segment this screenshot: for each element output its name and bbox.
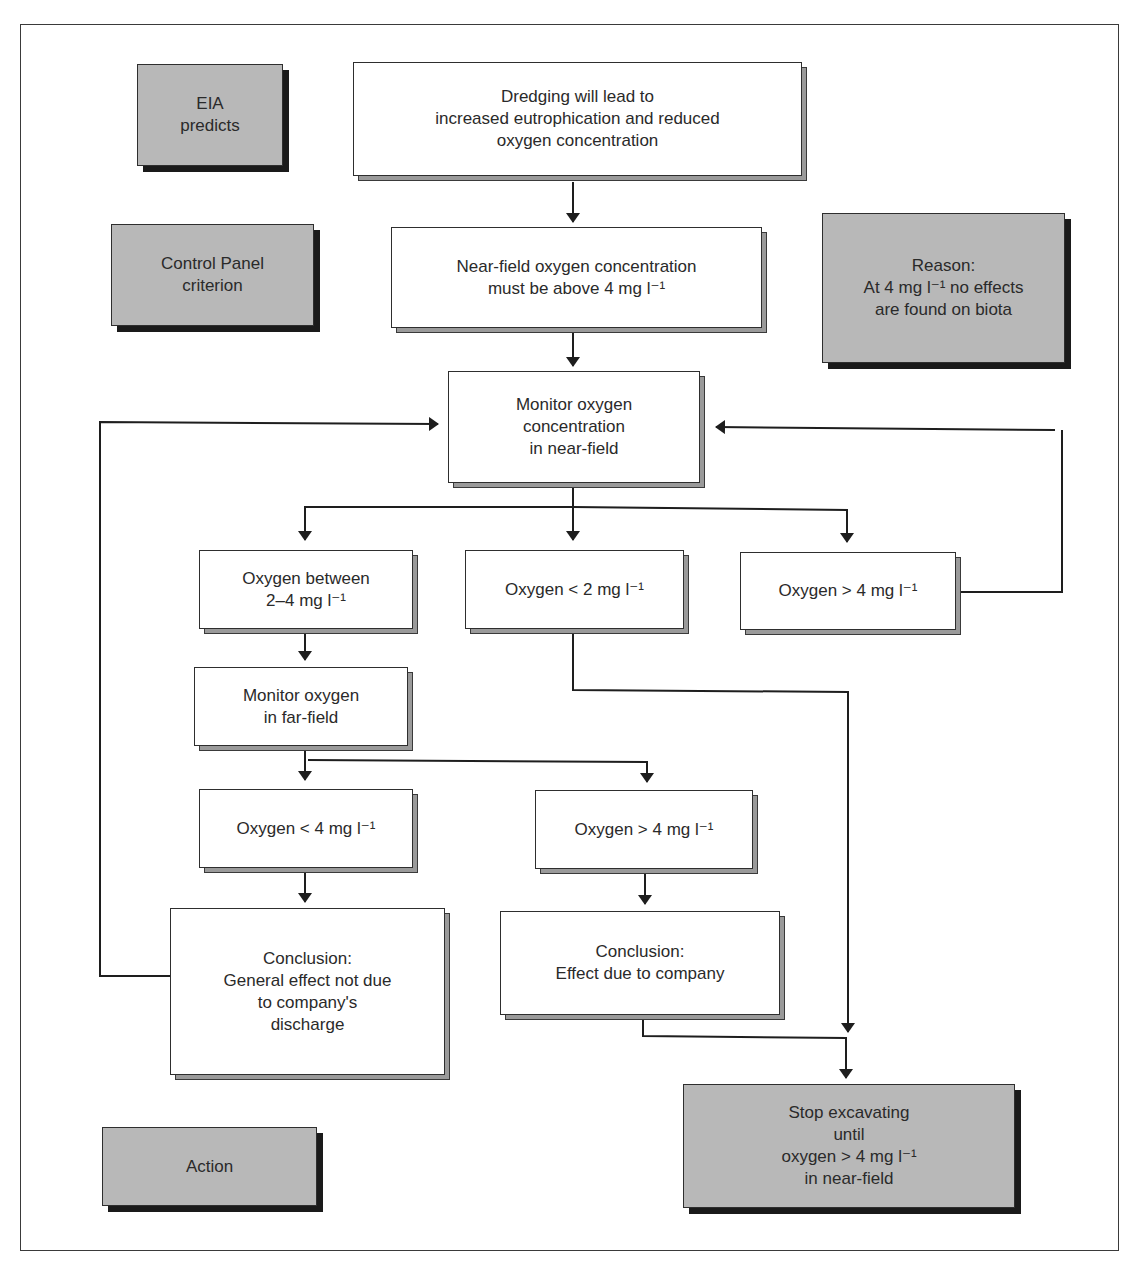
legend-eia-predicts: EIA predicts bbox=[137, 64, 283, 166]
node-near-field-criterion: Near-field oxygen concentration must be … bbox=[391, 227, 762, 328]
node-monitor-far-field: Monitor oxygen in far-field bbox=[194, 667, 408, 746]
node-conclusion-not-company-label: Conclusion: General effect not due to co… bbox=[224, 948, 392, 1036]
legend-control-panel-label: Control Panel criterion bbox=[161, 253, 264, 297]
node-oxygen-gt-4-near-label: Oxygen > 4 mg l⁻¹ bbox=[779, 580, 918, 602]
legend-eia-predicts-label: EIA predicts bbox=[180, 93, 240, 137]
node-dredging-prediction: Dredging will lead to increased eutrophi… bbox=[353, 62, 802, 176]
legend-reason: Reason: At 4 mg l⁻¹ no effects are found… bbox=[822, 213, 1065, 363]
node-oxygen-2-4-label: Oxygen between 2–4 mg l⁻¹ bbox=[242, 568, 370, 612]
node-oxygen-gt-4-far: Oxygen > 4 mg l⁻¹ bbox=[535, 790, 753, 869]
node-conclusion-not-company: Conclusion: General effect not due to co… bbox=[170, 908, 445, 1075]
node-oxygen-lt-4-far-label: Oxygen < 4 mg l⁻¹ bbox=[237, 818, 376, 840]
node-conclusion-company-label: Conclusion: Effect due to company bbox=[556, 941, 725, 985]
node-oxygen-2-4: Oxygen between 2–4 mg l⁻¹ bbox=[199, 550, 413, 629]
node-dredging-label: Dredging will lead to increased eutrophi… bbox=[435, 86, 719, 152]
node-oxygen-gt-4-near: Oxygen > 4 mg l⁻¹ bbox=[740, 552, 956, 630]
node-oxygen-gt-4-far-label: Oxygen > 4 mg l⁻¹ bbox=[575, 819, 714, 841]
node-conclusion-company: Conclusion: Effect due to company bbox=[500, 911, 780, 1015]
legend-action: Action bbox=[102, 1127, 317, 1206]
node-monitor-near-label: Monitor oxygen concentration in near-fie… bbox=[516, 394, 632, 460]
legend-control-panel-criterion: Control Panel criterion bbox=[111, 224, 314, 326]
legend-action-label: Action bbox=[186, 1156, 233, 1178]
node-monitor-near-field: Monitor oxygen concentration in near-fie… bbox=[448, 371, 700, 483]
node-monitor-far-label: Monitor oxygen in far-field bbox=[243, 685, 359, 729]
node-oxygen-lt-4-far: Oxygen < 4 mg l⁻¹ bbox=[199, 789, 413, 868]
node-stop-excavating-label: Stop excavating until oxygen > 4 mg l⁻¹ … bbox=[781, 1102, 916, 1190]
node-oxygen-lt-2: Oxygen < 2 mg l⁻¹ bbox=[465, 550, 684, 629]
node-criterion-label: Near-field oxygen concentration must be … bbox=[456, 256, 696, 300]
legend-reason-label: Reason: At 4 mg l⁻¹ no effects are found… bbox=[864, 255, 1024, 321]
node-stop-excavating: Stop excavating until oxygen > 4 mg l⁻¹ … bbox=[683, 1084, 1015, 1208]
node-oxygen-lt-2-label: Oxygen < 2 mg l⁻¹ bbox=[505, 579, 644, 601]
